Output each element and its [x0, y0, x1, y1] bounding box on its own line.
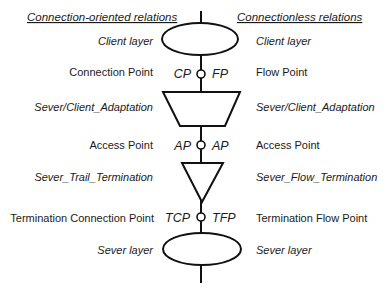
access-point-label-right: Access Point: [256, 139, 320, 151]
termination-point-circle: [197, 213, 205, 221]
ap-abbr-left: AP: [173, 139, 191, 153]
layer-relations-diagram: Connection-oriented relations Connection…: [0, 0, 391, 291]
flow-point-label: Flow Point: [256, 66, 307, 78]
access-point-label-left: Access Point: [89, 139, 153, 151]
adaptation-label-right: Sever/Client_Adaptation: [256, 101, 375, 113]
tcp-abbr: TCP: [165, 211, 191, 225]
adaptation-trapezoid: [163, 92, 240, 126]
header-connection-oriented: Connection-oriented relations: [27, 11, 177, 23]
server-layer-label-right: Sever layer: [256, 244, 313, 256]
tfp-abbr: TFP: [212, 211, 236, 225]
ap-abbr-right: AP: [211, 139, 229, 153]
server-layer-label-left: Sever layer: [97, 244, 154, 256]
access-point-circle: [197, 141, 205, 149]
termination-flow-point-label: Termination Flow Point: [256, 212, 367, 224]
header-connectionless: Connectionless relations: [237, 11, 363, 23]
cp-abbr: CP: [174, 67, 192, 81]
fp-abbr: FP: [212, 67, 229, 81]
connection-point-label: Connection Point: [69, 66, 153, 78]
trail-termination-label: Sever_Trail_Termination: [34, 171, 153, 183]
client-layer-ellipse: [162, 23, 238, 55]
server-layer-ellipse: [163, 233, 241, 265]
termination-triangle: [182, 163, 223, 202]
client-layer-label-left: Client layer: [98, 35, 154, 47]
flow-termination-label: Sever_Flow_Termination: [256, 171, 377, 183]
client-layer-label-right: Client layer: [256, 35, 312, 47]
adaptation-label-left: Sever/Client_Adaptation: [34, 101, 153, 113]
termination-connection-point-label: Termination Connection Point: [10, 212, 154, 224]
connection-point-circle: [197, 70, 205, 78]
